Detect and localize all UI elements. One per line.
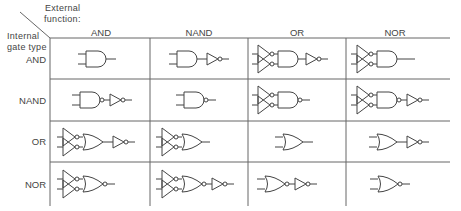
cell-or-or xyxy=(275,134,313,150)
cell-nand-or xyxy=(252,86,310,114)
cell-and-or xyxy=(252,45,328,73)
cell-and-and xyxy=(78,51,116,67)
cell-nor-or xyxy=(257,176,317,192)
cell-nor-nor xyxy=(370,176,410,192)
cell-or-nand xyxy=(156,128,210,156)
cell-nor-nand xyxy=(156,170,234,198)
gate-table-diagram xyxy=(0,0,461,211)
cell-nand-nand xyxy=(176,92,216,108)
cell-or-nor xyxy=(369,134,429,150)
cell-nor-and xyxy=(57,170,115,198)
cell-and-nor xyxy=(351,45,415,73)
cell-nand-and xyxy=(72,92,132,108)
cell-nand-nor xyxy=(351,86,429,114)
cell-or-and xyxy=(57,128,135,156)
cell-and-nand xyxy=(169,51,229,67)
